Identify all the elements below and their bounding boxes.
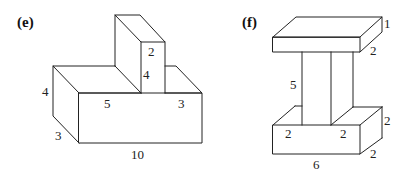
dim-f-bottom-flange-height: 2 bbox=[384, 113, 391, 128]
figure-f-label: (f) bbox=[242, 14, 257, 31]
dim-e-base-height: 4 bbox=[42, 84, 49, 99]
dim-e-tower-depth: 2 bbox=[148, 44, 155, 59]
diagram-canvas: (e) 2 4 5 3 4 3 10 (f) bbox=[0, 0, 412, 173]
figure-f-top-flange bbox=[273, 17, 382, 52]
dim-e-base-length: 10 bbox=[131, 147, 144, 162]
dim-f-bottom-left-flange-width: 2 bbox=[285, 126, 292, 141]
dim-e-tower-height: 4 bbox=[143, 67, 150, 82]
dim-f-bottom-right-flange-width: 2 bbox=[340, 126, 347, 141]
dim-e-left-step-width: 5 bbox=[104, 96, 111, 111]
dim-f-top-flange-depth: 2 bbox=[370, 43, 377, 58]
dim-e-base-depth: 3 bbox=[55, 128, 62, 143]
dim-f-top-flange-thickness: 1 bbox=[384, 16, 391, 31]
figure-f: (f) 1 2 5 2 2 bbox=[242, 14, 391, 172]
figure-e-right-step bbox=[165, 66, 202, 93]
figure-f-web bbox=[302, 52, 353, 125]
dim-f-web-height: 5 bbox=[290, 77, 297, 92]
dim-f-base-length: 6 bbox=[313, 157, 320, 172]
figure-e-label: (e) bbox=[17, 14, 34, 31]
dim-e-right-step-width: 3 bbox=[178, 96, 185, 111]
dim-f-bottom-flange-depth: 2 bbox=[370, 146, 377, 161]
figure-e: (e) 2 4 5 3 4 3 10 bbox=[17, 14, 202, 162]
figure-e-tower bbox=[115, 15, 165, 93]
